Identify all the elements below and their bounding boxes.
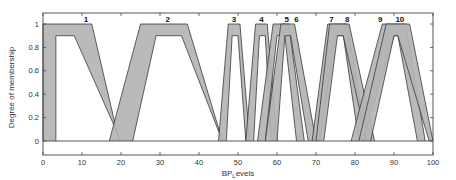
set-label-3: 3 [232, 15, 237, 24]
x-tick-label: 70 [312, 158, 320, 167]
set-labels: 12345678910 [84, 15, 405, 24]
set-label-7: 7 [329, 15, 334, 24]
fuzzy-sets [43, 24, 433, 141]
set-label-8: 8 [345, 15, 350, 24]
x-tick-label: 100 [427, 158, 440, 167]
y-tick-label: 1 [35, 20, 39, 29]
x-tick-label: 40 [195, 158, 203, 167]
y-tick-label: 0.4 [29, 90, 39, 99]
x-tick-label: 60 [273, 158, 281, 167]
x-tick-label: 30 [156, 158, 164, 167]
y-tick-label: 0.8 [29, 43, 39, 52]
set-label-10: 10 [395, 15, 404, 24]
x-tick-label: 0 [41, 158, 45, 167]
x-tick-label: 20 [117, 158, 125, 167]
fuzzy-set-1 [43, 24, 121, 141]
x-tick-label: 80 [351, 158, 359, 167]
set-label-2: 2 [166, 15, 171, 24]
y-tick-label: 0 [35, 137, 39, 146]
x-tick-label: 50 [234, 158, 242, 167]
set-label-5: 5 [285, 15, 290, 24]
fuzzy-set-2 [109, 24, 222, 141]
x-tick-label: 90 [390, 158, 398, 167]
set-label-1: 1 [84, 15, 89, 24]
y-axis-label: Degree of membership [7, 46, 16, 128]
fuzzy-set-3 [219, 24, 250, 141]
x-tick-label: 10 [78, 158, 86, 167]
y-tick-label: 0.6 [29, 66, 39, 75]
y-tick-label: 0.2 [29, 113, 39, 122]
set-label-4: 4 [259, 15, 264, 24]
set-label-9: 9 [378, 15, 383, 24]
x-axis-label: BPLevels [222, 169, 255, 179]
set-label-6: 6 [294, 15, 299, 24]
membership-function-chart: 0102030405060708090100 00.20.40.60.81 12… [0, 0, 456, 180]
